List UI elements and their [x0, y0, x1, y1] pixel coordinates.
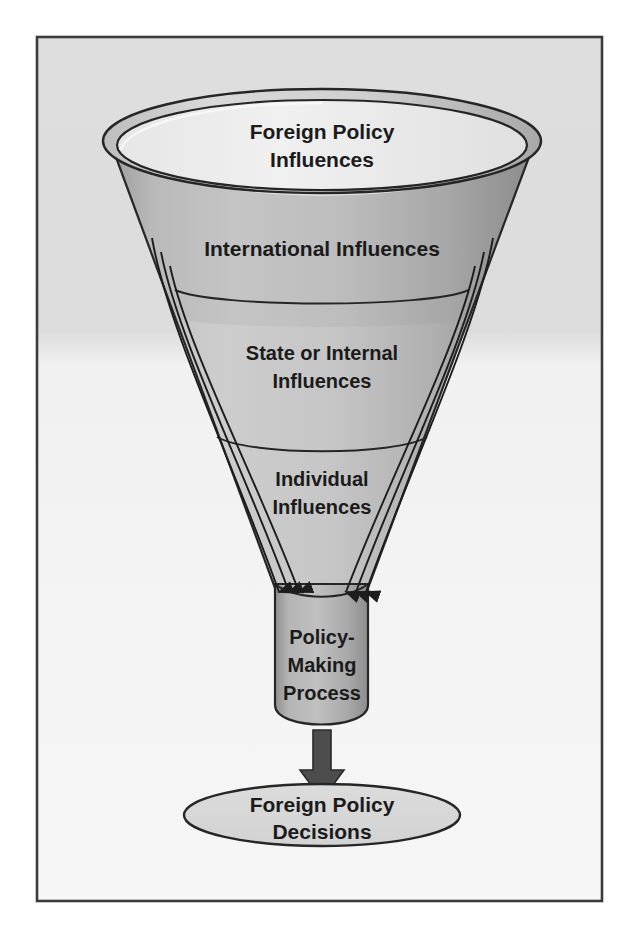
- label-international-influences: International Influences: [204, 237, 440, 260]
- outcome-label-line1: Foreign Policy: [250, 793, 395, 816]
- neck-label-line2: Making: [288, 654, 357, 676]
- outcome-label-line2: Decisions: [272, 820, 371, 843]
- section-label-state-line1: State or Internal: [246, 342, 398, 364]
- funnel-diagram-svg: Foreign Policy Influences International …: [0, 0, 629, 939]
- section-label-individual-line1: Individual: [275, 468, 368, 490]
- rim-label-line2: Influences: [270, 148, 374, 171]
- label-policy-making-process: Policy- Making Process: [283, 626, 361, 704]
- neck-label-line1: Policy-: [289, 626, 355, 648]
- rim-inner-ellipse: [117, 100, 527, 190]
- rim-label-line1: Foreign Policy: [250, 120, 395, 143]
- figure-root: Foreign Policy Influences International …: [0, 0, 629, 939]
- neck-label-line3: Process: [283, 682, 361, 704]
- outcome-node: Foreign Policy Decisions: [184, 784, 460, 846]
- section-label-individual-line2: Influences: [273, 496, 372, 518]
- section-label-international-line1: International Influences: [204, 237, 440, 260]
- section-label-state-line2: Influences: [273, 370, 372, 392]
